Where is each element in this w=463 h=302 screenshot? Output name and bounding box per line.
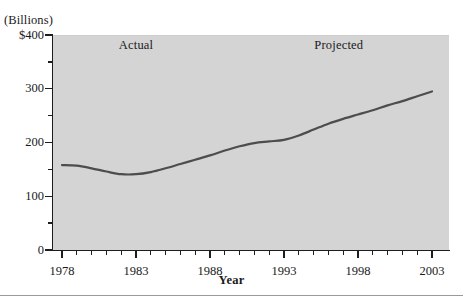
x-tick-minor (343, 250, 344, 255)
y-tick-major (45, 34, 53, 35)
y-tick-major (45, 196, 53, 197)
y-tick-minor (48, 222, 54, 223)
x-tick-minor (91, 250, 92, 255)
x-tick-major (357, 250, 358, 258)
x-tick-minor (387, 250, 388, 255)
y-tick-major (45, 142, 53, 143)
plot-area (53, 35, 449, 250)
x-tick-minor (121, 250, 122, 255)
y-axis-tick-label: 300 (0, 82, 44, 94)
x-tick-major (283, 250, 284, 258)
y-tick-major (45, 88, 53, 89)
y-tick-minor (48, 61, 54, 62)
x-tick-minor (150, 250, 151, 255)
y-tick-minor (48, 169, 54, 170)
y-axis-unit-label: (Billions) (4, 13, 53, 27)
footer-rule (0, 295, 463, 296)
x-axis-title: Year (0, 273, 463, 288)
x-tick-minor (239, 250, 240, 255)
x-tick-minor (417, 250, 418, 255)
plot-annotation-actual: Actual (119, 39, 154, 52)
x-tick-minor (180, 250, 181, 255)
plot-annotation-projected: Projected (314, 39, 363, 52)
y-tick-minor (48, 115, 54, 116)
x-tick-minor (269, 250, 270, 255)
x-tick-major (135, 250, 136, 258)
line-series-svg (53, 35, 449, 250)
y-tick-major (45, 249, 53, 250)
x-tick-minor (165, 250, 166, 255)
x-tick-major (209, 250, 210, 258)
y-axis-tick-label: 100 (0, 190, 44, 202)
x-tick-major (431, 250, 432, 258)
x-tick-minor (254, 250, 255, 255)
x-tick-major (61, 250, 62, 258)
x-tick-minor (76, 250, 77, 255)
x-tick-minor (372, 250, 373, 255)
y-axis-tick-label: 0 (0, 244, 44, 256)
x-tick-minor (224, 250, 225, 255)
x-tick-minor (195, 250, 196, 255)
x-axis-line (52, 250, 450, 251)
y-axis-tick-label: 200 (0, 136, 44, 148)
chart-figure: (Billions) 0100200300$400 19781983198819… (0, 0, 463, 302)
x-tick-minor (328, 250, 329, 255)
x-tick-minor (298, 250, 299, 255)
y-axis-tick-label: $400 (0, 29, 44, 41)
data-line-spending (62, 91, 432, 174)
x-tick-minor (106, 250, 107, 255)
x-tick-minor (402, 250, 403, 255)
x-tick-minor (313, 250, 314, 255)
